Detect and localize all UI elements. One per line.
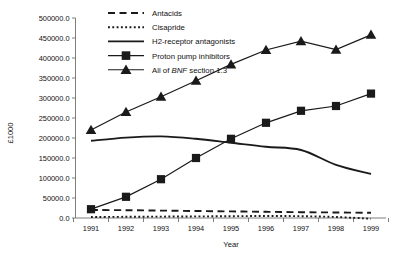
data-point-marker	[297, 107, 305, 115]
data-point-marker	[262, 119, 270, 127]
y-tick-label: 250000.0	[39, 114, 70, 123]
data-point-marker	[121, 107, 132, 116]
legend-item-antacids[interactable]: Antacids	[108, 9, 182, 18]
legend-item-h2-receptor-antagonists[interactable]: H2-receptor antagonists	[108, 37, 235, 46]
series-path	[91, 210, 371, 213]
series-path	[91, 94, 371, 210]
series-proton-pump-inhibitors	[87, 90, 375, 214]
y-axis-ticks: 0.050000.0100000.0150000.0200000.0250000…	[39, 14, 76, 223]
data-point-marker	[157, 175, 165, 183]
legend-label: Proton pump inhibitors	[152, 52, 230, 61]
data-point-marker	[296, 36, 307, 45]
legend-label: All of BNF section 1.3	[152, 66, 227, 75]
x-tick-label: 1991	[83, 224, 99, 233]
legend-item-all-of-bnf-section-1-3[interactable]: All of BNF section 1.3	[108, 64, 227, 74]
x-tick-label: 1999	[363, 224, 379, 233]
data-point-marker	[192, 154, 200, 162]
y-tick-label: 50000.0	[43, 194, 70, 203]
series-antacids	[91, 210, 371, 213]
data-point-marker	[332, 102, 340, 110]
data-point-marker	[122, 193, 130, 201]
x-tick-label: 1996	[258, 224, 274, 233]
x-tick-label: 1992	[118, 224, 134, 233]
y-tick-label: 350000.0	[39, 74, 70, 83]
data-point-marker	[191, 76, 202, 85]
data-point-marker	[86, 125, 97, 134]
y-tick-label: 150000.0	[39, 154, 70, 163]
x-tick-label: 1993	[153, 224, 169, 233]
y-tick-label: 400000.0	[39, 54, 70, 63]
line-chart: 0.050000.0100000.0150000.0200000.0250000…	[0, 0, 399, 253]
x-tick-label: 1997	[293, 224, 309, 233]
x-tick-label: 1995	[223, 224, 239, 233]
y-tick-label: 100000.0	[39, 174, 70, 183]
data-point-marker	[227, 135, 235, 143]
data-point-marker	[367, 90, 375, 98]
legend-square-marker	[122, 51, 131, 60]
y-tick-label: 500000.0	[39, 14, 70, 23]
data-point-marker	[156, 92, 167, 101]
series-path	[91, 35, 371, 130]
legend-label: Cisapride	[152, 23, 185, 32]
y-tick-label: 0.0	[59, 214, 69, 223]
legend-triangle-marker	[120, 64, 131, 74]
x-tick-label: 1998	[328, 224, 344, 233]
data-point-marker	[87, 205, 95, 213]
legend-item-cisapride[interactable]: Cisapride	[108, 23, 185, 32]
legend-label: H2-receptor antagonists	[152, 37, 235, 46]
x-tick-label: 1994	[188, 224, 204, 233]
chart-legend: AntacidsCisaprideH2-receptor antagonists…	[108, 9, 235, 75]
chart-container: 0.050000.0100000.0150000.0200000.0250000…	[0, 0, 399, 253]
legend-label: Antacids	[152, 9, 182, 18]
y-tick-label: 300000.0	[39, 94, 70, 103]
x-axis-ticks: 199119921993199419951996199719981999	[74, 218, 389, 233]
y-axis-title: £1000	[6, 122, 15, 143]
data-point-marker	[366, 30, 377, 39]
y-tick-label: 200000.0	[39, 134, 70, 143]
x-axis-title: Year	[223, 240, 239, 249]
legend-item-proton-pump-inhibitors[interactable]: Proton pump inhibitors	[108, 51, 230, 60]
y-tick-label: 450000.0	[39, 34, 70, 43]
